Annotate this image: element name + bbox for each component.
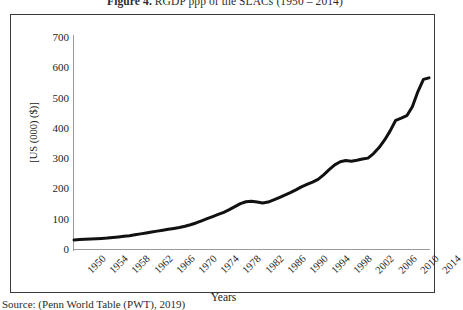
chart-frame: 7006005004003002001000 [US (000) ($)] 19… — [10, 14, 435, 293]
figure-caption-prefix: Figure 4. — [107, 0, 152, 7]
figure-caption: Figure 4. RGDP ppp of the SLACs (1950 – … — [0, 0, 450, 7]
figure-caption-text: RGDP ppp of the SLACs (1950 – 2014) — [152, 0, 343, 7]
data-series-plot — [11, 15, 436, 294]
line-series-rgdp — [74, 78, 429, 240]
source-note: Source: (Penn World Table (PWT), 2019) — [2, 298, 185, 310]
x-tick-label: 2014 — [440, 253, 463, 276]
